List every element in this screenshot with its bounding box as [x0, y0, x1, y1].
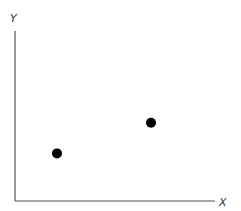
data-point [146, 118, 156, 128]
scatter-chart: Y X [0, 0, 241, 211]
data-points [52, 118, 156, 159]
x-axis-label: X [218, 196, 227, 209]
y-axis-label: Y [10, 12, 18, 25]
data-point [52, 148, 62, 158]
